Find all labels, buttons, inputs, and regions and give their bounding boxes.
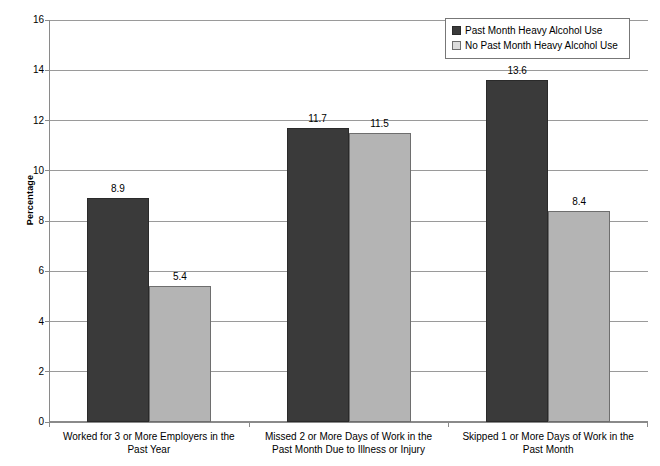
bar-value-label: 13.6 [476,65,558,76]
bar-value-label: 5.4 [139,271,221,282]
bar [149,286,211,422]
y-tick-mark [45,221,50,222]
y-tick-label: 16 [4,15,44,25]
y-tick-label: 12 [4,116,44,126]
y-tick-mark [45,70,50,71]
legend-label: No Past Month Heavy Alcohol Use [465,40,618,52]
y-axis-tick-labels: 0246810121416 [0,20,44,422]
x-axis-category-label-line: Worked for 3 or More Employers in the [49,430,249,443]
bar-value-label: 8.9 [77,183,159,194]
bar-value-label: 8.4 [538,196,620,207]
category-separator [647,422,648,427]
category-separator [448,422,449,427]
y-tick-mark [45,170,50,171]
y-tick-mark [45,321,50,322]
y-tick-mark [45,120,50,121]
x-axis-category-label-line: Skipped 1 or More Days of Work in the [448,430,648,443]
x-axis-category-label-line: Past Month Due to Illness or Injury [249,443,449,456]
y-tick-label: 10 [4,166,44,176]
legend-swatch-icon [452,41,461,50]
bar-value-label: 11.5 [339,118,421,129]
legend-label: Past Month Heavy Alcohol Use [465,25,602,37]
legend-swatch-icon [452,26,461,35]
x-axis-category-label-line: Past Year [49,443,249,456]
y-tick-label: 6 [4,266,44,276]
y-tick-label: 4 [4,317,44,327]
y-tick-label: 8 [4,216,44,226]
legend: Past Month Heavy Alcohol UseNo Past Mont… [445,18,630,59]
legend-item: No Past Month Heavy Alcohol Use [452,38,623,53]
bar-chart: Percentage 0246810121416 8.95.411.711.51… [0,0,660,466]
legend-item: Past Month Heavy Alcohol Use [452,23,623,38]
y-tick-mark [45,371,50,372]
bar [287,128,349,422]
category-separator [249,422,250,427]
y-tick-label: 14 [4,65,44,75]
bar [87,198,149,422]
y-tick-mark [45,271,50,272]
x-axis-category-label-line: Past Month [448,443,648,456]
category-separator [49,422,50,427]
x-axis-category-label: Skipped 1 or More Days of Work in thePas… [448,430,648,456]
bar [548,211,610,422]
y-tick-mark [45,20,50,21]
bar [349,133,411,422]
x-axis-category-label: Missed 2 or More Days of Work in thePast… [249,430,449,456]
x-axis-category-label-line: Missed 2 or More Days of Work in the [249,430,449,443]
bar [486,80,548,422]
y-tick-label: 0 [4,417,44,427]
x-axis-category-label: Worked for 3 or More Employers in thePas… [49,430,249,456]
plot-area: 8.95.411.711.513.68.4 [49,20,648,422]
y-tick-label: 2 [4,367,44,377]
